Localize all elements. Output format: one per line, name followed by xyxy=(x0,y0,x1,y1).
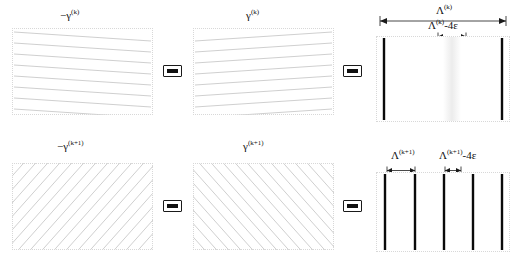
minus-sign-icon xyxy=(167,69,178,73)
panel-label-gamma-k: γ(k) xyxy=(246,10,259,21)
minus-operator-row-k-2 xyxy=(343,65,362,77)
dimension-label-lambda-k: Λ(k) xyxy=(436,5,452,16)
panel-label-minus-gamma-k: −γ(k) xyxy=(60,10,79,21)
panel-label-minus-gamma-k-plus-1: −γ(k+1) xyxy=(57,141,84,152)
dimension-label-lambda-k-plus-1: Λ(k+1) xyxy=(391,150,415,161)
grating-panel-minus-gamma-k xyxy=(12,28,153,115)
minus-sign-icon xyxy=(347,69,358,73)
minus-sign-icon xyxy=(167,204,178,208)
minus-operator-row-k-plus-1-2 xyxy=(343,200,362,212)
grating-lines-gamma-k-plus-1 xyxy=(193,163,334,250)
grating-lines-minus-gamma-k-plus-1 xyxy=(12,163,153,250)
minus-operator-row-k-1 xyxy=(163,65,182,77)
fringe-bars-k-plus-1 xyxy=(376,172,510,252)
figure-canvas: −γ(k) γ(k) xyxy=(0,0,514,258)
dimension-label-lambda-k-minus-4eps: Λ(k)-4ε xyxy=(428,20,458,31)
grating-panel-gamma-k-plus-1 xyxy=(193,163,334,250)
fringe-result-panel-k-plus-1 xyxy=(376,172,510,252)
grating-panel-minus-gamma-k-plus-1 xyxy=(12,163,153,250)
minus-operator-row-k-plus-1-1 xyxy=(163,200,182,212)
fringe-result-panel-k xyxy=(376,36,510,122)
fringe-bars-k xyxy=(376,36,510,122)
grating-panel-gamma-k xyxy=(193,28,334,115)
grating-lines-gamma-k xyxy=(193,28,334,115)
panel-label-gamma-k-plus-1: γ(k+1) xyxy=(243,141,264,152)
minus-sign-icon xyxy=(347,204,358,208)
grating-lines-minus-gamma-k xyxy=(12,28,153,115)
dimension-label-lambda-k-plus-1-minus-4eps: Λ(k+1)-4ε xyxy=(439,150,476,161)
